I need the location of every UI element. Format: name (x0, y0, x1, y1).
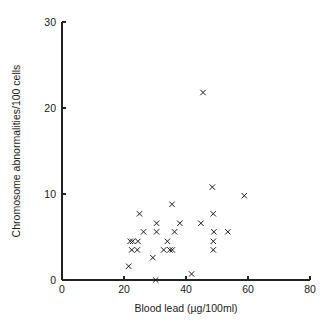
y-axis-title: Chromosome abnormalities/100 cells (10, 65, 22, 238)
data-point (211, 239, 216, 244)
y-tick-label-10: 10 (44, 188, 56, 200)
data-point (177, 221, 182, 226)
x-tick-label-0: 0 (59, 283, 65, 295)
axis-tick-labels: 0204060800102030 (44, 16, 316, 295)
data-point (172, 229, 177, 234)
y-tick-label-0: 0 (50, 274, 56, 286)
scatter-chart: 0204060800102030 Blood lead (µg/100ml)Ch… (0, 0, 333, 321)
data-point (135, 239, 140, 244)
data-point (210, 184, 215, 189)
data-point (169, 202, 174, 207)
x-tick-label-80: 80 (304, 283, 316, 295)
data-points (126, 90, 247, 283)
x-axis-title: Blood lead (µg/100ml) (135, 302, 238, 314)
data-point (165, 239, 170, 244)
data-point (211, 211, 216, 216)
data-point (154, 221, 159, 226)
axis-ticks (62, 22, 310, 280)
data-point (154, 229, 159, 234)
data-point (211, 247, 216, 252)
data-point (129, 247, 134, 252)
data-point (141, 229, 146, 234)
data-point (211, 229, 216, 234)
y-tick-label-30: 30 (44, 16, 56, 28)
data-point (225, 229, 230, 234)
x-tick-label-40: 40 (180, 283, 192, 295)
data-point (242, 193, 247, 198)
data-point (126, 264, 131, 269)
data-point (150, 255, 155, 260)
data-point (137, 211, 142, 216)
data-point (200, 90, 205, 95)
x-tick-label-20: 20 (118, 283, 130, 295)
data-point (198, 221, 203, 226)
figure-container: 0204060800102030 Blood lead (µg/100ml)Ch… (0, 0, 333, 321)
data-point (189, 271, 194, 276)
x-tick-label-60: 60 (242, 283, 254, 295)
axes (62, 22, 310, 280)
y-tick-label-20: 20 (44, 102, 56, 114)
data-point (135, 247, 140, 252)
data-point (161, 247, 166, 252)
